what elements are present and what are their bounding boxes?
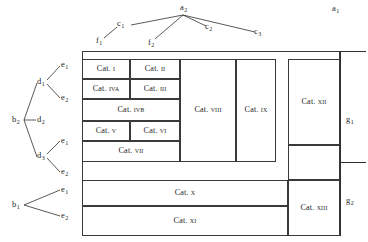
- edge-c1-f1: [104, 27, 117, 38]
- edge-b1-e1: [24, 190, 60, 205]
- edge-a2-c3: [183, 15, 255, 32]
- node-label-e2-d1: e2: [61, 93, 68, 102]
- node-label-d2: d2: [37, 115, 44, 124]
- node-label-e1-d1: e1: [61, 60, 68, 69]
- node-label-e1-d3: e1: [61, 136, 68, 145]
- node-label-g1: g1: [346, 115, 353, 124]
- edge-d3-e2: [47, 158, 60, 172]
- node-label-c1-top: c1: [117, 19, 124, 28]
- node-label-b2: b2: [12, 115, 19, 124]
- node-label-f1: f1: [96, 36, 102, 45]
- chart-outer-frame: [82, 51, 340, 236]
- edge-b2-d3: [24, 120, 37, 157]
- node-label-e2-b1: e2: [61, 211, 68, 220]
- node-label-c2-top: c2: [205, 22, 212, 31]
- node-label-f2: f2: [148, 38, 154, 47]
- edge-a2-c1: [131, 15, 183, 25]
- edge-d1-e1: [47, 66, 60, 80]
- edge-b2-d1: [24, 83, 37, 120]
- node-label-c3-top: c3: [254, 27, 261, 36]
- node-label-a1: a1: [332, 4, 339, 13]
- diagram-canvas: a2 a1 c1 c2 c3 f1 f2 b2 d1 d2 d3 e1 e2 e…: [0, 0, 368, 242]
- edge-d1-e2: [47, 84, 60, 98]
- node-label-a2: a2: [180, 3, 187, 12]
- edge-b1-e2: [24, 205, 60, 216]
- g-split-rule: [340, 162, 366, 163]
- node-label-d3: d3: [37, 151, 44, 160]
- node-label-e1-b1: e1: [61, 185, 68, 194]
- g-column-rule: [340, 51, 341, 236]
- node-label-d1: d1: [37, 77, 44, 86]
- edge-a2-c2: [183, 15, 206, 26]
- edge-d3-e1: [47, 141, 60, 154]
- node-label-g2: g2: [346, 196, 353, 205]
- edge-a2-f2: [155, 15, 183, 39]
- node-label-b1: b1: [12, 200, 19, 209]
- node-label-e2-d3: e2: [61, 167, 68, 176]
